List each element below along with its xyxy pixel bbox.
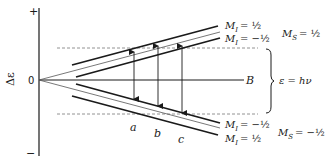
upper-mi-plus-label: MI= ½ <box>224 20 262 34</box>
svg-text:MI= ½: MI= ½ <box>224 20 262 34</box>
transition-label-c: c <box>178 133 184 146</box>
upper-ms-label: MS= ½ <box>281 28 321 42</box>
origin-label: 0 <box>28 75 34 86</box>
lower-ms-label: MS= −½ <box>277 127 325 141</box>
upper-mi-minus-label: MI= −½ <box>224 33 270 47</box>
y-axis-label: Δε <box>4 72 17 86</box>
resonance-condition: ε = hν <box>279 75 312 86</box>
svg-text:MS= ½: MS= ½ <box>281 28 321 42</box>
transition-label-a: a <box>130 121 137 134</box>
upper-unsplit-level <box>39 32 220 80</box>
svg-text:MI= −½: MI= −½ <box>224 33 270 47</box>
lower-mi-minus-label: MI= −½ <box>224 119 270 133</box>
svg-text:MS= −½: MS= −½ <box>277 127 325 141</box>
resonance-brace <box>266 49 274 113</box>
y-axis-plus: + <box>29 5 38 18</box>
svg-text:MI= ½: MI= ½ <box>224 133 262 147</box>
y-axis-minus: − <box>26 147 35 160</box>
lower-mi-plus-label: MI= ½ <box>224 133 262 147</box>
transition-label-b: b <box>154 127 161 140</box>
energy-level-diagram: + − 0 Δε B a b c ε = hν MI= ½ MI= −½ MS=… <box>0 0 334 162</box>
b-field-label: B <box>245 74 254 87</box>
svg-text:MI= −½: MI= −½ <box>224 119 270 133</box>
